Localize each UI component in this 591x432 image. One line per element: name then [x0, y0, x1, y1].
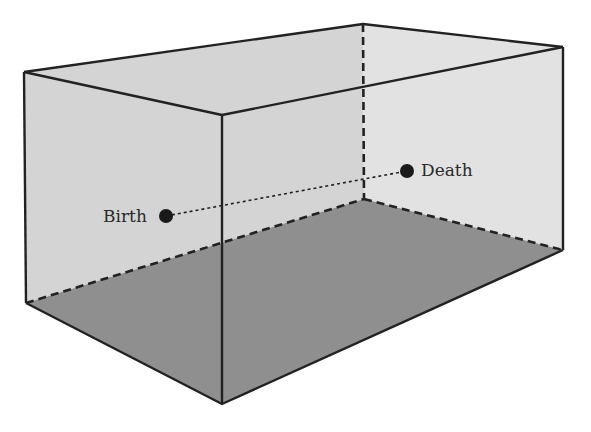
death-label: Death [421, 162, 473, 179]
box-diagram-svg [0, 0, 591, 432]
birth-label: Birth [103, 208, 147, 225]
birth-point-icon [159, 209, 173, 223]
box-diagram: Birth Death [0, 0, 591, 432]
death-point-icon [400, 164, 414, 178]
